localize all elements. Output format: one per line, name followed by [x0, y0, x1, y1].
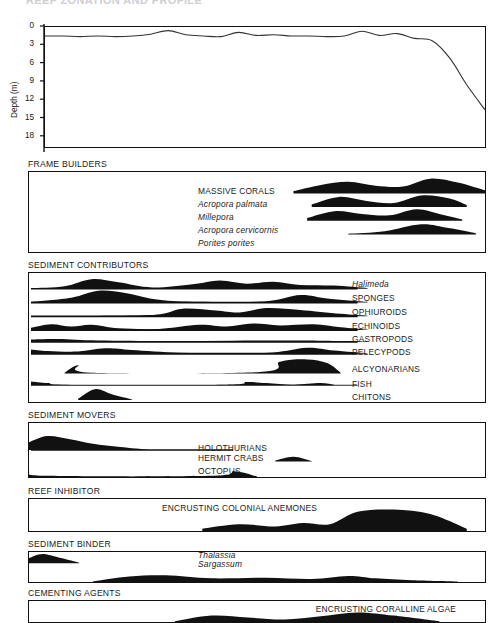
section-label-sediment-contributors: SEDIMENT CONTRIBUTORS: [28, 260, 148, 270]
taxon-label-gastropods: GASTROPODS: [352, 334, 413, 344]
section-label-sediment-binder: SEDIMENT BINDER: [28, 539, 111, 549]
depth-tick-12: 12: [8, 94, 34, 103]
depth-tick-9: 9: [8, 76, 34, 85]
section-label-reef-inhibitor: REEF INHIBITOR: [28, 486, 100, 496]
taxon-label-alcyonarians: ALCYONARIANS: [352, 364, 420, 374]
kite-fish: [31, 381, 334, 385]
kite-sponges: [31, 291, 368, 303]
depth-profile-plot: [45, 27, 485, 147]
kite-thalassia: [29, 554, 79, 563]
taxon-label-ophiuroids: OPHIUROIDS: [352, 307, 407, 317]
panel-sediment-contributors: [28, 272, 486, 403]
taxon-label-halimeda: Halimeda: [352, 279, 389, 289]
taxon-label-porites-porites: Porites porites: [198, 238, 255, 248]
taxon-label-echinoids: ECHINOIDS: [352, 321, 400, 331]
kite-holothurians: [29, 436, 148, 450]
figure-title: REEF ZONATION AND PROFILE: [26, 0, 202, 6]
taxon-label-encrusting-coralline-algae: ENCRUSTING CORALLINE ALGAE: [316, 604, 456, 614]
taxon-label-massive-corals: MASSIVE CORALS: [198, 186, 275, 196]
kite-acropora-palmata: [312, 195, 467, 207]
kite-alcyonarians: [65, 359, 341, 373]
kite-halimeda: [31, 279, 368, 289]
taxon-label-octopus: OCTOPUS: [198, 466, 241, 476]
taxon-label-sargassum: Sargassum: [198, 559, 242, 569]
depth-tick-0: 0: [8, 21, 34, 30]
kite-massive-corals: [293, 179, 485, 194]
taxon-label-sponges: SPONGES: [352, 293, 395, 303]
depth-tick-3: 3: [8, 39, 34, 48]
reef-zonation-figure: REEF ZONATION AND PROFILE Depth (m) 0369…: [0, 0, 490, 623]
taxon-label-hermit-crabs: HERMIT CRABS: [198, 453, 264, 463]
kite-echinoids: [31, 324, 368, 331]
section-label-sediment-movers: SEDIMENT MOVERS: [28, 410, 116, 420]
depth-profile-panel: [44, 26, 486, 148]
taxon-label-acropora-palmata: Acropora palmata: [198, 199, 267, 209]
panel-sediment-binder: [28, 551, 486, 583]
taxon-label-acropora-cervicornis: Acropora cervicornis: [198, 225, 278, 235]
kite-ophiuroids: [31, 308, 368, 316]
taxon-label-pelecypods: PELECYPODS: [352, 347, 411, 357]
kite-acropora-cervicornis: [348, 224, 476, 234]
taxon-label-holothurians: HOLOTHURIANS: [198, 443, 267, 453]
kite-gastropods: [31, 339, 368, 342]
kite-millepora: [307, 209, 462, 221]
taxon-label-fish: FISH: [352, 379, 372, 389]
depth-tick-15: 15: [8, 113, 34, 122]
depth-axis-spine: [36, 24, 46, 152]
kite-hermit-crabs: [275, 457, 311, 462]
frame-builders-kites: [29, 172, 485, 252]
taxon-label-chitons: CHITONS: [352, 392, 391, 402]
depth-tick-6: 6: [8, 58, 34, 67]
section-label-cementing-agents: CEMENTING AGENTS: [28, 588, 121, 598]
kite-sargassum: [93, 575, 458, 582]
taxon-label-millepora: Millepora: [198, 212, 234, 222]
kite-chitons: [78, 389, 132, 400]
taxon-label-encrusting-colonial-anemones: ENCRUSTING COLONIAL ANEMONES: [162, 503, 317, 513]
sediment-binder-kites: [29, 552, 485, 582]
section-label-frame-builders: FRAME BUILDERS: [28, 159, 107, 169]
panel-frame-builders: [28, 171, 486, 253]
sediment-contributors-kites: [29, 273, 485, 402]
depth-tick-18: 18: [8, 131, 34, 140]
